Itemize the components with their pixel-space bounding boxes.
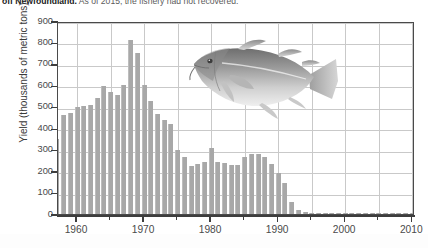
bar [403, 213, 408, 214]
x-axis-tick-minor [109, 216, 110, 220]
bar [68, 113, 73, 214]
bar [175, 150, 180, 214]
bar [148, 101, 153, 214]
x-axis-tick [142, 216, 143, 222]
chart-figure: Yield (thousands of metric tons) 9008007… [0, 15, 428, 248]
caption-text: off Newfoundland. As of 2015, the fisher… [2, 0, 238, 8]
bar [349, 213, 354, 214]
bar [303, 212, 308, 214]
caption-bold-lead: off Newfoundland. [2, 0, 77, 6]
bar [229, 165, 234, 214]
bar [168, 124, 173, 214]
y-axis-label: 300 [17, 144, 53, 154]
plot-area [57, 22, 414, 215]
y-axis-label: 800 [17, 37, 53, 47]
y-axis-label: 100 [17, 187, 53, 197]
bar [289, 202, 294, 214]
bar [296, 210, 301, 214]
figure-page: off Newfoundland. As of 2015, the fisher… [0, 0, 428, 248]
x-axis-tick-minor [310, 216, 311, 220]
page-footer-band [0, 234, 428, 248]
x-axis-line [57, 215, 415, 217]
bar [336, 213, 341, 214]
bar [75, 107, 80, 214]
bar [182, 157, 187, 214]
bar [95, 98, 100, 214]
bar [128, 40, 133, 214]
bar [323, 213, 328, 214]
x-axis-tick [277, 216, 278, 222]
bar [115, 95, 120, 214]
x-axis-tick [75, 216, 76, 222]
bar [329, 213, 334, 214]
bar [316, 213, 321, 214]
x-axis-tick [344, 216, 345, 222]
bar [356, 213, 361, 214]
bar [256, 154, 261, 214]
bar [155, 114, 160, 214]
x-axis-tick [209, 216, 210, 222]
bar [269, 164, 274, 214]
bar [81, 106, 86, 214]
bar [135, 53, 140, 214]
bar [215, 162, 220, 215]
bar [242, 157, 247, 214]
y-axis-label: 0 [17, 209, 53, 219]
y-axis-label: 700 [17, 58, 53, 68]
bar [209, 148, 214, 215]
bar [235, 165, 240, 214]
bar [383, 213, 388, 214]
bar [61, 115, 66, 214]
caption-rest: As of 2015, the fishery had not recovere… [77, 0, 238, 6]
bar [249, 154, 254, 214]
bar [370, 213, 375, 214]
x-axis-tick-minor [176, 216, 177, 220]
bar [282, 183, 287, 214]
figure-caption: off Newfoundland. As of 2015, the fisher… [0, 0, 428, 15]
bar [390, 213, 395, 214]
bar [262, 157, 267, 214]
bar [108, 92, 113, 214]
y-axis-label: 500 [17, 101, 53, 111]
x-axis-tick [411, 216, 412, 222]
bar-series [58, 23, 413, 214]
bar [189, 166, 194, 214]
bar [396, 213, 401, 214]
bar [222, 163, 227, 215]
bar [376, 213, 381, 214]
y-axis-label: 200 [17, 166, 53, 176]
y-axis-label: 600 [17, 80, 53, 90]
bar [162, 120, 167, 214]
y-axis-label: 400 [17, 123, 53, 133]
bar [363, 213, 368, 214]
y-axis-label: 900 [17, 16, 53, 26]
x-axis-tick-minor [243, 216, 244, 220]
bar [276, 173, 281, 214]
bar [202, 162, 207, 215]
bar [121, 85, 126, 214]
bar [195, 164, 200, 214]
bar [343, 213, 348, 214]
bar [309, 213, 314, 214]
bar [410, 213, 414, 214]
bar [57, 139, 59, 214]
x-axis-tick-minor [377, 216, 378, 220]
bar [101, 86, 106, 214]
bar [142, 85, 147, 214]
bar [88, 105, 93, 214]
